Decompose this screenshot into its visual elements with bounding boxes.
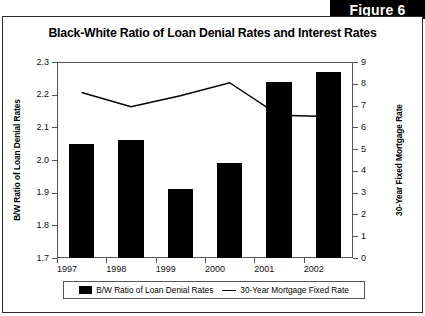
- x-axis-tick-label: 2002: [304, 265, 324, 274]
- y-axis-right-tick: [353, 171, 358, 172]
- y-axis-right-tick: [353, 258, 358, 259]
- figure-panel: Figure 6 Black-White Ratio of Loan Denia…: [0, 0, 425, 316]
- y-axis-right-tick-label: 8: [361, 79, 366, 88]
- x-axis-tick-label: 1998: [106, 265, 126, 274]
- y-axis-left-tick-label: 2.1: [36, 123, 49, 132]
- x-axis-tick: [156, 258, 157, 263]
- y-axis-right-tick-label: 1: [361, 232, 366, 241]
- x-axis-tick: [57, 258, 58, 263]
- y-axis-left-tick-label: 2.0: [36, 156, 49, 165]
- y-axis-right-tick-label: 4: [361, 166, 366, 175]
- legend-label-bars: B/W Ratio of Loan Denial Rates: [96, 285, 213, 295]
- y-axis-right-tick-label: 2: [361, 210, 366, 219]
- y-axis-right-tick-label: 7: [361, 101, 366, 110]
- legend-swatch-icon: [79, 286, 92, 294]
- mortgage-rate-line: [82, 83, 329, 117]
- x-axis-tick-label: 1997: [57, 265, 77, 274]
- legend-line-icon: [222, 290, 236, 291]
- y-axis-right-tick: [353, 149, 358, 150]
- y-axis-right-tick: [353, 193, 358, 194]
- legend-label-line: 30-Year Mortgage Fixed Rate: [240, 285, 349, 295]
- y-axis-left-tick-label: 2.3: [36, 58, 49, 67]
- y-axis-right-tick-label: 3: [361, 188, 366, 197]
- y-axis-right-tick: [353, 62, 358, 63]
- legend-item-line: 30-Year Mortgage Fixed Rate: [222, 285, 349, 295]
- y-axis-right-tick: [353, 236, 358, 237]
- x-axis-tick-label: 2001: [254, 265, 274, 274]
- y-axis-right-tick-label: 0: [361, 254, 366, 263]
- line-series: [57, 62, 353, 258]
- legend-item-bars: B/W Ratio of Loan Denial Rates: [79, 285, 213, 295]
- y-axis-right-tick-label: 9: [361, 58, 366, 67]
- y-axis-right-tick: [353, 127, 358, 128]
- plot-area-wrapper: 1.71.81.92.02.12.22.3 0123456789 1997199…: [57, 62, 353, 258]
- x-axis-tick-label: 1999: [156, 265, 176, 274]
- y-axis-right-title-text: 30-Year Fixed Mortgage Rate: [394, 104, 404, 216]
- x-axis-tick: [304, 258, 305, 263]
- y-axis-left-tick-label: 1.7: [36, 254, 49, 263]
- chart-title: Black-White Ratio of Loan Denial Rates a…: [0, 26, 425, 40]
- y-axis-left-tick-label: 1.8: [36, 221, 49, 230]
- x-axis-tick-label: 2000: [205, 265, 225, 274]
- y-axis-left-tick-label: 1.9: [36, 188, 49, 197]
- y-axis-left-title: B/W Ratio of Loan Denial Rates: [10, 62, 24, 258]
- x-axis-tick: [106, 258, 107, 263]
- y-axis-right-tick-label: 5: [361, 145, 366, 154]
- y-axis-right-tick: [353, 84, 358, 85]
- x-axis-tick: [254, 258, 255, 263]
- x-axis-tick: [205, 258, 206, 263]
- y-axis-right-tick: [353, 214, 358, 215]
- y-axis-right-tick: [353, 106, 358, 107]
- y-axis-right-tick-label: 6: [361, 123, 366, 132]
- y-axis-right-title: 30-Year Fixed Mortgage Rate: [392, 62, 406, 258]
- y-axis-left-tick-label: 2.2: [36, 90, 49, 99]
- chart-legend: B/W Ratio of Loan Denial Rates 30-Year M…: [63, 281, 365, 299]
- y-axis-left-title-text: B/W Ratio of Loan Denial Rates: [12, 99, 22, 221]
